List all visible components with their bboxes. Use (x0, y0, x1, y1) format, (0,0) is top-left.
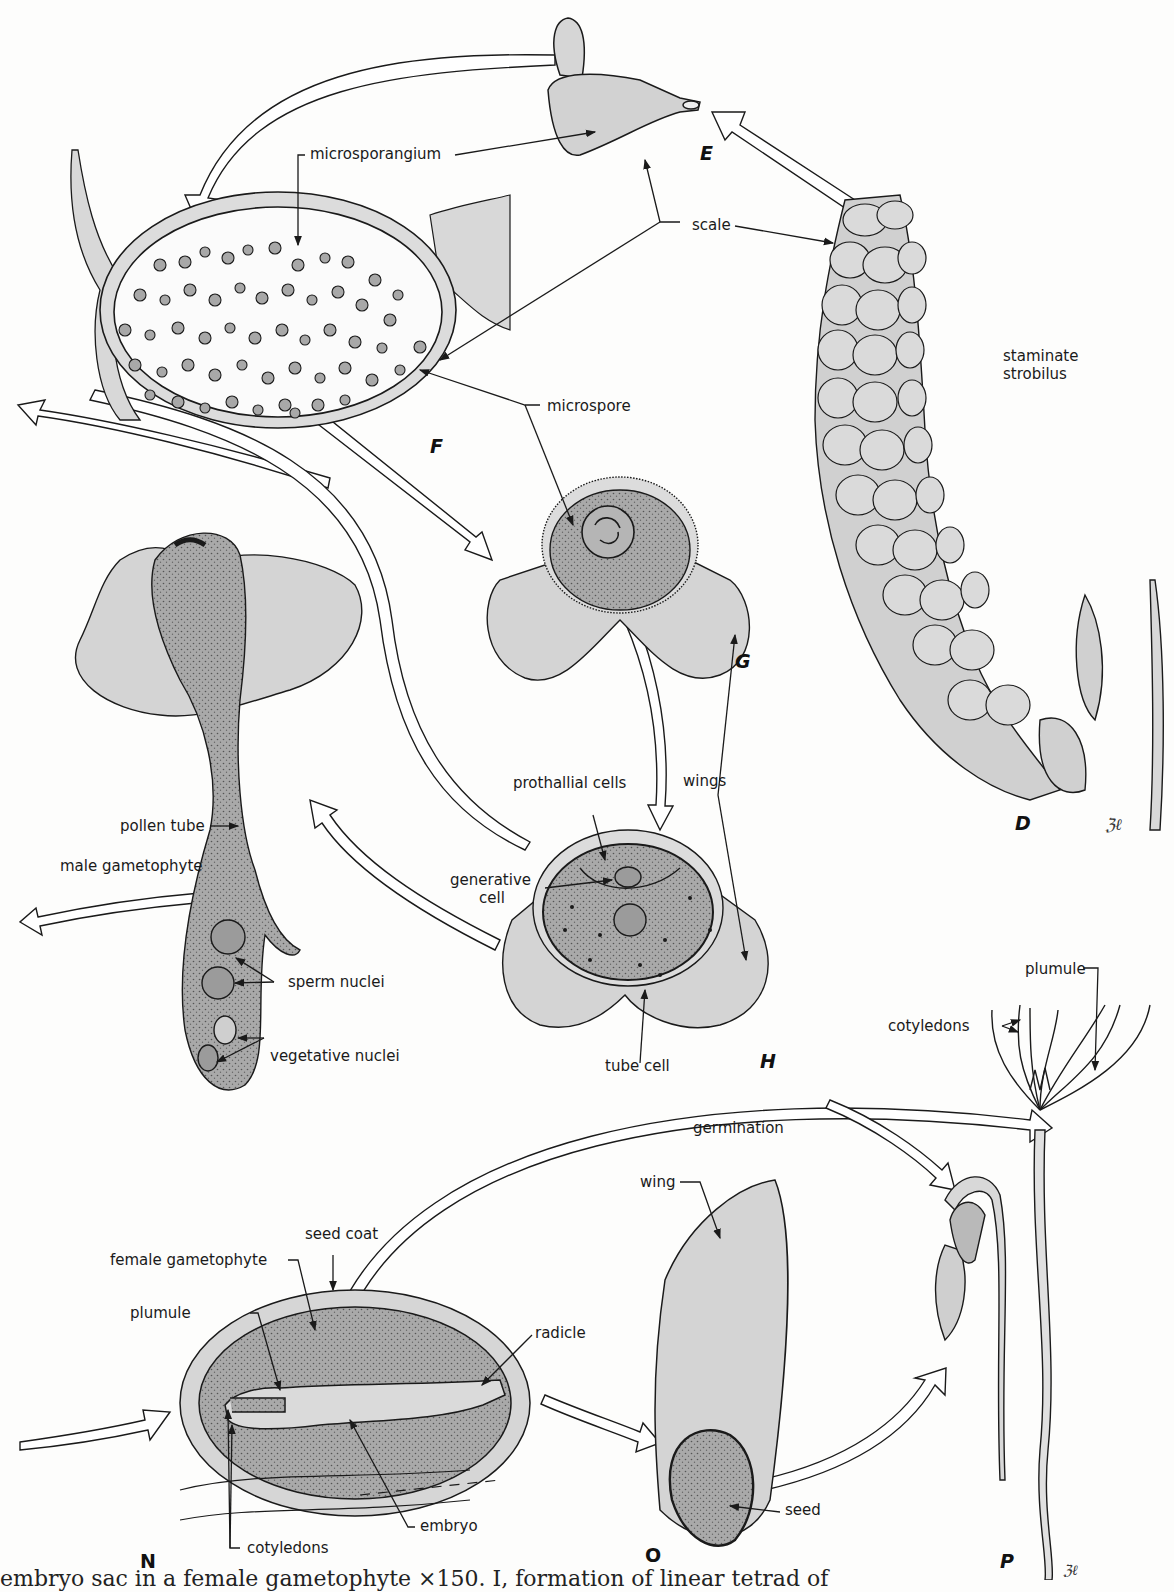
panel-letter-p: P (1000, 1550, 1014, 1572)
panel-d-strobilus: ℨℓ (815, 195, 1163, 834)
label-radicle: radicle (535, 1325, 586, 1342)
label-microspore: microspore (547, 398, 631, 415)
label-strobilus: strobilus (1003, 366, 1067, 383)
label-cotyledons-seedling: cotyledons (888, 1018, 970, 1035)
label-pollen-tube: pollen tube (120, 818, 205, 835)
panel-letter-h: H (760, 1050, 776, 1072)
panel-n-seed (180, 1290, 530, 1520)
panel-f-microsporangium (71, 150, 510, 428)
arrow-n-to-o (541, 1395, 660, 1452)
label-staminate: staminate (1003, 348, 1078, 365)
panel-letter-g: G (735, 650, 751, 672)
label-tube-cell: tube cell (605, 1058, 670, 1075)
svg-text:ℨℓ: ℨℓ (1105, 815, 1122, 834)
panel-o-winged-seed (655, 1180, 788, 1546)
label-scale: scale (692, 217, 731, 234)
panel-letter-f: F (430, 435, 443, 457)
label-plumule-seedling: plumule (1025, 961, 1086, 978)
label-wings: wings (683, 773, 726, 790)
label-female-gametophyte: female gametophyte (110, 1252, 267, 1269)
arrow-m-out (20, 893, 200, 935)
arrow-f-to-g (310, 410, 492, 560)
label-embryo: embryo (420, 1518, 478, 1535)
svg-text:ℨℓ: ℨℓ (1063, 1562, 1078, 1578)
label-germination: germination (693, 1120, 784, 1137)
label-cell: cell (479, 890, 505, 907)
panel-letter-o: O (645, 1544, 661, 1566)
panel-letter-d: D (1015, 812, 1031, 834)
label-plumule-seed: plumule (130, 1305, 191, 1322)
label-cotyledons-seed: cotyledons (247, 1540, 329, 1557)
arrow-into-n (20, 1410, 170, 1450)
label-vegetative-nuclei: vegetative nuclei (270, 1048, 400, 1065)
panel-p-seedlings: ℨℓ (936, 1005, 1150, 1580)
label-prothallial-cells: prothallial cells (513, 775, 626, 792)
label-male-gametophyte: male gametophyte (60, 858, 203, 875)
arrow-o-to-p (760, 1368, 946, 1490)
label-generative: generative (450, 872, 531, 889)
label-wing: wing (640, 1174, 675, 1191)
arrow-d-to-e (712, 112, 855, 210)
figure-caption-partial: embryo sac in a female gametophyte ×150.… (0, 1566, 828, 1592)
label-sperm-nuclei: sperm nuclei (288, 974, 385, 991)
label-seed: seed (785, 1502, 821, 1519)
label-seed-coat: seed coat (305, 1226, 378, 1243)
panel-letter-e: E (700, 142, 713, 164)
panel-g-microspore (487, 477, 749, 680)
panel-e-scale (548, 18, 700, 155)
label-microsporangium: microsporangium (310, 146, 441, 163)
